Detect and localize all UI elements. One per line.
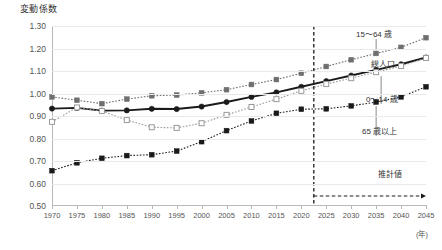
estimate-arrow-head bbox=[421, 193, 426, 198]
x-tick bbox=[401, 205, 402, 209]
x-tick-label: 2010 bbox=[243, 211, 260, 220]
data-point bbox=[274, 77, 279, 82]
data-point bbox=[249, 94, 254, 99]
data-point bbox=[199, 139, 204, 144]
x-tick-label: 2045 bbox=[418, 211, 435, 220]
x-tick-label: 1980 bbox=[94, 211, 111, 220]
x-tick bbox=[52, 205, 53, 209]
data-point bbox=[174, 149, 179, 154]
data-point bbox=[174, 106, 179, 111]
data-point bbox=[249, 119, 254, 124]
x-tick bbox=[177, 205, 178, 209]
x-tick-label: 1970 bbox=[44, 211, 61, 220]
estimate-label: 推計値 bbox=[378, 168, 402, 179]
data-point bbox=[249, 82, 254, 87]
data-point bbox=[249, 105, 254, 110]
data-point bbox=[324, 64, 329, 69]
data-point bbox=[399, 64, 404, 69]
gridline bbox=[52, 26, 426, 27]
y-tick-label: 0.70 bbox=[8, 156, 46, 166]
data-point bbox=[124, 97, 129, 102]
gridline bbox=[52, 161, 426, 162]
x-tick-label: 1990 bbox=[143, 211, 160, 220]
chart-container: 変動係数 15～64 歳 総人口 0～14 歳 65 歳以上 推計値 (年) 0… bbox=[0, 0, 442, 250]
y-tick-label: 0.90 bbox=[8, 111, 46, 121]
data-point bbox=[299, 107, 304, 112]
data-point bbox=[99, 109, 104, 114]
gridline bbox=[52, 71, 426, 72]
data-point bbox=[224, 87, 229, 92]
x-tick bbox=[251, 205, 252, 209]
data-point bbox=[199, 121, 204, 126]
gridline bbox=[52, 139, 426, 140]
x-tick-label: 2020 bbox=[293, 211, 310, 220]
data-point bbox=[349, 57, 354, 62]
x-tick bbox=[102, 205, 103, 209]
x-tick bbox=[376, 205, 377, 209]
data-point bbox=[349, 103, 354, 108]
series-label-15-64: 15～64 歳 bbox=[356, 28, 392, 39]
x-tick bbox=[326, 205, 327, 209]
gridline bbox=[52, 94, 426, 95]
data-point bbox=[124, 153, 129, 158]
x-tick bbox=[276, 205, 277, 209]
gridline bbox=[52, 184, 426, 185]
data-point bbox=[149, 125, 154, 130]
x-tick-label: 1975 bbox=[69, 211, 86, 220]
data-point bbox=[324, 106, 329, 111]
data-point bbox=[324, 82, 329, 87]
data-point bbox=[374, 51, 379, 56]
data-point bbox=[349, 76, 354, 81]
x-tick bbox=[127, 205, 128, 209]
data-point bbox=[99, 101, 104, 106]
series-label-0-14: 0～14 歳 bbox=[366, 93, 398, 104]
x-axis-unit-label: (年) bbox=[416, 228, 428, 239]
data-point bbox=[99, 156, 104, 161]
x-tick-label: 2015 bbox=[268, 211, 285, 220]
data-point bbox=[50, 119, 55, 124]
x-tick-label: 2025 bbox=[318, 211, 335, 220]
x-tick bbox=[301, 205, 302, 209]
x-tick bbox=[426, 205, 427, 209]
data-point bbox=[74, 105, 79, 110]
y-tick-label: 0.80 bbox=[8, 134, 46, 144]
x-tick-label: 1995 bbox=[168, 211, 185, 220]
data-point bbox=[174, 125, 179, 130]
data-point bbox=[124, 108, 129, 113]
data-point bbox=[149, 106, 154, 111]
data-point bbox=[424, 84, 429, 89]
data-point bbox=[224, 99, 229, 104]
y-tick-label: 0.60 bbox=[8, 179, 46, 189]
data-point bbox=[424, 55, 429, 60]
x-tick-label: 1985 bbox=[118, 211, 135, 220]
x-tick-label: 2000 bbox=[193, 211, 210, 220]
x-tick bbox=[202, 205, 203, 209]
series-label-65-plus: 65 歳以上 bbox=[362, 125, 397, 136]
data-point bbox=[75, 98, 80, 103]
data-point bbox=[224, 128, 229, 133]
data-point bbox=[50, 168, 55, 173]
x-tick-label: 2035 bbox=[368, 211, 385, 220]
y-tick-label: 1.20 bbox=[8, 44, 46, 54]
x-tick-label: 2005 bbox=[218, 211, 235, 220]
data-point bbox=[274, 97, 279, 102]
x-tick bbox=[77, 205, 78, 209]
y-tick-label: 1.30 bbox=[8, 21, 46, 31]
x-tick-label: 2030 bbox=[343, 211, 360, 220]
data-point bbox=[199, 104, 204, 109]
x-tick bbox=[152, 205, 153, 209]
y-tick-label: 1.10 bbox=[8, 66, 46, 76]
gridline bbox=[52, 49, 426, 50]
gridline bbox=[52, 116, 426, 117]
x-tick-label: 2040 bbox=[393, 211, 410, 220]
data-point bbox=[49, 106, 54, 111]
data-point bbox=[399, 94, 404, 99]
x-tick bbox=[351, 205, 352, 209]
y-tick-label: 0.50 bbox=[8, 201, 46, 211]
data-point bbox=[50, 94, 55, 99]
data-point bbox=[124, 118, 129, 123]
data-point bbox=[424, 35, 429, 40]
data-point bbox=[149, 152, 154, 157]
series-label-total: 総人口 bbox=[371, 58, 395, 69]
data-point bbox=[274, 111, 279, 116]
